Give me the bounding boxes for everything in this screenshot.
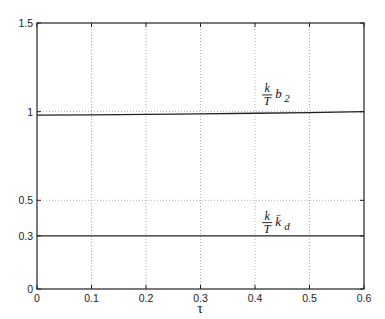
svg-text:d: d	[284, 220, 290, 232]
y-tick-label: 0.5	[18, 194, 33, 206]
svg-text:k: k	[265, 81, 271, 95]
line-chart: 00.10.20.30.40.50.6 00.30.511.5 τ kTb2kT…	[0, 0, 385, 319]
series-line-1	[37, 112, 364, 116]
x-tick-label: 0.2	[139, 292, 154, 304]
y-tick-label: 1	[27, 106, 33, 118]
svg-text:T: T	[264, 222, 272, 236]
svg-text:T: T	[264, 94, 272, 108]
series-label-1: kTb2	[262, 81, 290, 108]
x-tick-label: 0.5	[302, 292, 317, 304]
y-tick-label: 0.3	[18, 230, 33, 242]
grid-lines	[37, 23, 364, 289]
x-axis-ticks: 00.10.20.30.40.50.6	[34, 23, 371, 304]
svg-text:b: b	[275, 86, 282, 101]
y-tick-label: 0	[27, 283, 33, 295]
series-label-2: kTk̄d	[262, 209, 290, 236]
x-tick-label: 0.1	[84, 292, 99, 304]
svg-text:k̄: k̄	[275, 214, 281, 229]
y-axis-ticks: 00.30.511.5	[18, 17, 364, 295]
x-tick-label: 0.6	[357, 292, 372, 304]
x-tick-label: 0	[34, 292, 40, 304]
svg-text:2: 2	[284, 92, 290, 104]
x-tick-label: 0.4	[248, 292, 263, 304]
series-annotations: kTb2kTk̄d	[262, 81, 290, 236]
x-axis-label: τ	[197, 301, 203, 316]
y-tick-label: 1.5	[18, 17, 33, 29]
svg-text:k: k	[265, 209, 271, 223]
